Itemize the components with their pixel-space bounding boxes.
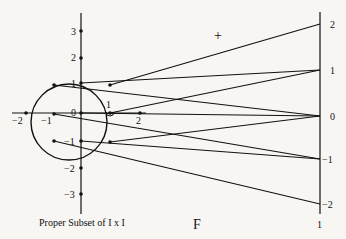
point <box>79 139 83 143</box>
map-line <box>81 70 320 83</box>
point <box>52 83 56 87</box>
point <box>79 111 83 115</box>
v-label: 1 <box>71 78 76 89</box>
diagram: 3 2 1 0 −1 −2 −3 −2 −1 1 2 2 1 0 −1 −2 1… <box>0 0 346 239</box>
v-label: −3 <box>64 189 75 200</box>
v-label: 2 <box>71 52 76 63</box>
point <box>79 81 83 85</box>
v-label: 3 <box>71 26 76 37</box>
h-label: −1 <box>41 115 52 126</box>
map-line <box>54 85 320 116</box>
v-label: −2 <box>64 163 75 174</box>
v-label: −1 <box>64 136 75 147</box>
right-tick-label: 0 <box>330 111 335 122</box>
left-caption: Proper Subset of I x I <box>39 217 125 228</box>
point <box>108 140 112 144</box>
right-tick-label: 1 <box>330 65 335 76</box>
v-label: 0 <box>71 107 76 118</box>
h-label: 1 <box>106 99 111 110</box>
point <box>52 139 56 143</box>
right-tick-label: −2 <box>322 199 333 210</box>
point <box>79 166 83 170</box>
h-label: −2 <box>12 115 23 126</box>
plus-label: + <box>214 28 222 43</box>
point <box>79 192 83 196</box>
point <box>79 56 83 60</box>
right-tick-label: −1 <box>322 154 333 165</box>
right-axis-label: 1 <box>317 219 322 230</box>
point <box>52 112 56 116</box>
map-line <box>54 141 320 204</box>
point <box>108 111 112 115</box>
map-label: F <box>193 217 201 232</box>
h-label: 2 <box>136 115 141 126</box>
map-line <box>81 113 320 116</box>
map-line <box>110 70 320 113</box>
point <box>108 83 112 87</box>
mapping-lines <box>54 24 320 204</box>
point <box>79 29 83 33</box>
point <box>24 111 28 115</box>
right-tick-label: 2 <box>330 19 335 30</box>
